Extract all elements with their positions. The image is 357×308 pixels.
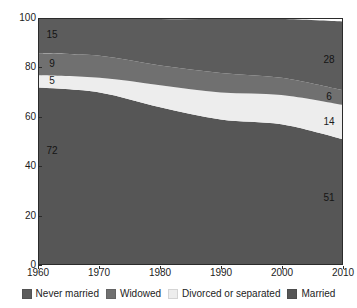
legend-item-label: Married xyxy=(301,289,335,299)
x-axis: 196019701980199020002010 xyxy=(38,266,343,282)
band-value-label: 15 xyxy=(46,30,57,40)
legend-item-label: Widowed xyxy=(120,289,161,299)
band-value-label: 28 xyxy=(323,55,334,65)
y-axis: 020406080100 xyxy=(0,18,36,265)
y-axis-tick-mark xyxy=(38,67,42,68)
x-axis-tick-label: 1970 xyxy=(88,268,110,278)
band-value-label: 9 xyxy=(49,59,55,69)
y-axis-tick-label: 80 xyxy=(4,62,36,72)
y-axis-tick-mark xyxy=(38,117,42,118)
legend-item-never-married[interactable]: Never married xyxy=(22,289,99,299)
x-axis-tick-label: 2000 xyxy=(271,268,293,278)
legend-item-label: Divorced or separated xyxy=(182,289,280,299)
legend-item-divorced-or-separated[interactable]: Divorced or separated xyxy=(168,289,280,299)
legend-swatch-icon xyxy=(22,289,32,299)
band-value-label: 51 xyxy=(323,193,334,203)
band-value-label: 6 xyxy=(326,92,332,102)
y-axis-tick-label: 20 xyxy=(4,211,36,221)
y-axis-tick-mark xyxy=(38,18,42,19)
x-axis-tick-label: 1960 xyxy=(27,268,49,278)
x-axis-tick-label: 1980 xyxy=(149,268,171,278)
y-axis-tick-label: 60 xyxy=(4,112,36,122)
y-axis-tick-mark xyxy=(38,265,42,266)
y-axis-tick-mark xyxy=(38,216,42,217)
chart-legend: Never marriedWidowedDivorced or separate… xyxy=(0,286,357,302)
band-value-label: 72 xyxy=(46,146,57,156)
legend-item-married[interactable]: Married xyxy=(287,289,335,299)
y-axis-tick-label: 40 xyxy=(4,161,36,171)
plot-area xyxy=(38,18,343,265)
y-axis-tick-mark xyxy=(38,166,42,167)
legend-swatch-icon xyxy=(287,289,297,299)
y-axis-tick-label: 100 xyxy=(4,13,36,23)
legend-item-widowed[interactable]: Widowed xyxy=(106,289,161,299)
stacked-area-svg xyxy=(39,19,342,264)
band-value-label: 5 xyxy=(49,76,55,86)
x-axis-tick-label: 2010 xyxy=(332,268,354,278)
legend-swatch-icon xyxy=(168,289,178,299)
band-value-label: 14 xyxy=(323,117,334,127)
legend-swatch-icon xyxy=(106,289,116,299)
chart-figure: 020406080100 196019701980199020002010 Ne… xyxy=(0,0,357,308)
legend-item-label: Never married xyxy=(36,289,99,299)
x-axis-tick-label: 1990 xyxy=(210,268,232,278)
